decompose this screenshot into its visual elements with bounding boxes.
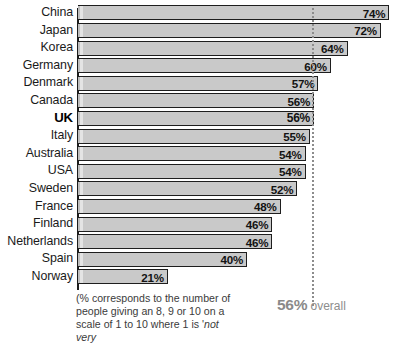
bar-value-label: 74% bbox=[363, 6, 386, 19]
bar-category-label: Norway bbox=[0, 268, 73, 286]
footnote: (% corresponds to the number of people g… bbox=[76, 292, 241, 344]
bar-category-label: Korea bbox=[0, 39, 73, 57]
footnote-line-1: (% corresponds to the number of bbox=[76, 292, 230, 304]
bar-container: 74% bbox=[78, 5, 389, 20]
bar-row: Australia54% bbox=[0, 145, 401, 163]
bar-container: 60% bbox=[78, 58, 331, 73]
overall-value: 56% bbox=[277, 296, 307, 313]
bar-category-label: Germany bbox=[0, 57, 73, 75]
bar-category-label: Australia bbox=[0, 145, 73, 163]
bar-container: 46% bbox=[78, 217, 272, 232]
bar-category-label: Spain bbox=[0, 250, 73, 268]
bar: 48% bbox=[78, 199, 281, 214]
bar-row: USA54% bbox=[0, 162, 401, 180]
bar-row: Spain40% bbox=[0, 250, 401, 268]
bar-container: 55% bbox=[78, 129, 310, 144]
bar: 56% bbox=[78, 111, 314, 126]
bar-row: Korea64% bbox=[0, 39, 401, 57]
bar-container: 56% bbox=[78, 111, 314, 126]
bar-row: France48% bbox=[0, 198, 401, 216]
footnote-line-2: people giving an 8, 9 or 10 on a bbox=[76, 305, 224, 317]
bar-value-label: 56% bbox=[287, 111, 310, 125]
bar-value-label: 57% bbox=[292, 77, 315, 90]
bar-value-label: 72% bbox=[354, 24, 377, 37]
bar-category-label: Sweden bbox=[0, 180, 73, 198]
bar: 60% bbox=[78, 58, 331, 73]
bar-value-label: 54% bbox=[279, 165, 302, 178]
bar-row: UK56% bbox=[0, 110, 401, 128]
bar-value-label: 55% bbox=[283, 130, 306, 143]
bar: 55% bbox=[78, 129, 310, 144]
bar-row: Canada56% bbox=[0, 92, 401, 110]
bar-container: 21% bbox=[78, 269, 168, 284]
bar-container: 54% bbox=[78, 146, 306, 161]
bar: 21% bbox=[78, 269, 168, 284]
bar-row: Denmark57% bbox=[0, 74, 401, 92]
bar: 40% bbox=[78, 252, 247, 267]
bar-category-label: Italy bbox=[0, 127, 73, 145]
overall-reference-line bbox=[312, 8, 314, 306]
bar: 54% bbox=[78, 146, 306, 161]
bar: 46% bbox=[78, 217, 272, 232]
bar: 72% bbox=[78, 23, 381, 38]
bar: 64% bbox=[78, 41, 348, 56]
bar-value-label: 46% bbox=[246, 235, 269, 248]
bar-container: 48% bbox=[78, 199, 281, 214]
bar-container: 64% bbox=[78, 41, 348, 56]
bar-category-label: Netherlands bbox=[0, 233, 73, 251]
bar-category-label: UK bbox=[0, 110, 73, 128]
bar-container: 56% bbox=[78, 93, 314, 108]
bar-category-label: China bbox=[0, 4, 73, 22]
bar: 74% bbox=[78, 5, 389, 20]
bar-value-label: 54% bbox=[279, 147, 302, 160]
bar-category-label: Finland bbox=[0, 215, 73, 233]
bar-category-label: Japan bbox=[0, 22, 73, 40]
bar-value-label: 56% bbox=[287, 94, 310, 107]
bar-category-label: Canada bbox=[0, 92, 73, 110]
bar: 52% bbox=[78, 181, 297, 196]
bar-container: 40% bbox=[78, 252, 247, 267]
bar-row: Germany60% bbox=[0, 57, 401, 75]
bar-row: Finland46% bbox=[0, 215, 401, 233]
overall-annotation: 56% overall bbox=[277, 296, 346, 314]
bar-container: 52% bbox=[78, 181, 297, 196]
bar: 56% bbox=[78, 93, 314, 108]
bar-container: 54% bbox=[78, 164, 306, 179]
footnote-line-3: scale of 1 to 10 where 1 is ' bbox=[76, 318, 204, 330]
bar-container: 46% bbox=[78, 234, 272, 249]
bar-container: 72% bbox=[78, 23, 381, 38]
bar-row: China74% bbox=[0, 4, 401, 22]
bar-value-label: 64% bbox=[321, 42, 344, 55]
bar-value-label: 40% bbox=[221, 253, 244, 266]
bar-value-label: 46% bbox=[246, 218, 269, 231]
bar: 46% bbox=[78, 234, 272, 249]
bar-category-label: USA bbox=[0, 162, 73, 180]
bar-category-label: France bbox=[0, 198, 73, 216]
bar-value-label: 52% bbox=[271, 182, 294, 195]
bar: 57% bbox=[78, 76, 318, 91]
bar-row: Netherlands46% bbox=[0, 233, 401, 251]
bar: 54% bbox=[78, 164, 306, 179]
plot-area: China74%Japan72%Korea64%Germany60%Denmar… bbox=[0, 4, 401, 287]
bar-row: Japan72% bbox=[0, 22, 401, 40]
bar-row: Sweden52% bbox=[0, 180, 401, 198]
bar-value-label: 48% bbox=[254, 200, 277, 213]
bar-category-label: Denmark bbox=[0, 74, 73, 92]
bar-row: Italy55% bbox=[0, 127, 401, 145]
bar-value-label: 21% bbox=[141, 270, 164, 283]
bar-row: Norway21% bbox=[0, 268, 401, 286]
bar-value-label: 60% bbox=[304, 59, 327, 72]
overall-label: overall bbox=[307, 299, 346, 313]
bar-container: 57% bbox=[78, 76, 318, 91]
